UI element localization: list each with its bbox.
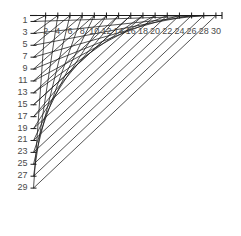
y-axis-tick-label: 9 (22, 64, 27, 73)
y-axis-tick-label: 15 (17, 100, 27, 109)
y-axis-tick-label: 3 (22, 28, 27, 37)
y-axis-tick-label: 25 (17, 159, 27, 168)
y-axis-tick-label: 19 (17, 124, 27, 133)
y-axis-tick-label: 1 (22, 16, 27, 25)
chart-canvas: 1357911131517192123252729 24681012141618… (0, 0, 241, 236)
y-axis-tick-label: 13 (17, 88, 27, 97)
y-axis-tick-label: 27 (17, 171, 27, 180)
y-axis-tick-label: 21 (17, 135, 27, 144)
axis-ticks (31, 13, 216, 189)
line-family-b (34, 16, 216, 189)
x-axis-tick-label: 30 (208, 27, 224, 36)
y-axis-tick-label: 11 (18, 76, 27, 85)
y-axis-tick-label: 29 (17, 183, 27, 192)
y-axis-tick-label: 17 (17, 112, 27, 121)
y-axis-tick-label: 7 (22, 52, 27, 61)
y-axis-tick-label: 23 (17, 147, 27, 156)
axis-lines (30, 12, 222, 19)
y-axis-tick-label: 5 (22, 40, 27, 49)
